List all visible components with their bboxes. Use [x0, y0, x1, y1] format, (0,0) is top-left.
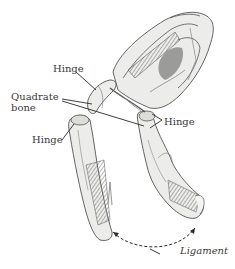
label-hinge-right: Hinge [164, 116, 195, 127]
label-quadrate-line2: bone [11, 102, 36, 113]
label-hinge-left: Hinge [32, 134, 63, 145]
arrow-right-icon [190, 228, 195, 234]
hinge-top-leader [76, 72, 96, 90]
label-ligament: Ligament [180, 245, 228, 256]
left-mandible [69, 115, 112, 241]
quadrate-bone [88, 80, 116, 114]
label-quadrate-line1: Quadrate [11, 91, 59, 102]
skull [113, 12, 213, 108]
ligament-leader [150, 249, 160, 254]
label-hinge-top: Hinge [53, 63, 84, 74]
snake-skull-diagram: Hinge Quadrate bone Hinge Hinge Ligament [0, 0, 235, 269]
right-mandible [137, 111, 204, 218]
